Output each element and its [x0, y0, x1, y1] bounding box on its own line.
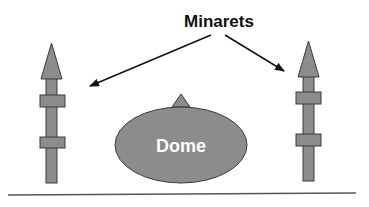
minarets-label: Minarets: [184, 12, 254, 31]
arrow-to-right-minaret: [225, 35, 284, 71]
ground-line: [8, 193, 356, 195]
right-minaret: [296, 41, 321, 181]
dome-finial: [172, 94, 190, 107]
left-minaret: [40, 43, 65, 183]
mosque-diagram: Minarets Dome: [0, 0, 369, 207]
dome-label: Dome: [156, 136, 206, 156]
arrow-to-left-minaret: [90, 35, 211, 86]
